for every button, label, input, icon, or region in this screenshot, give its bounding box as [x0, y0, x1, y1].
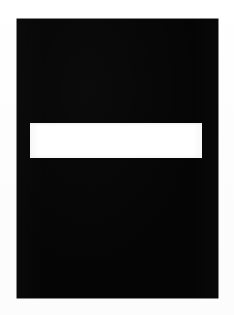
white-bar-shape	[30, 123, 202, 158]
black-plate-shape	[17, 19, 218, 298]
figure-canvas: Black rectangle with white horizontal ba…	[0, 0, 234, 315]
